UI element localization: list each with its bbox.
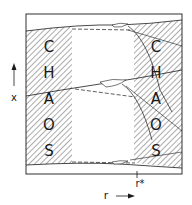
chaos-letter: A — [151, 90, 162, 108]
chaos-letter: O — [150, 116, 162, 134]
y-axis-indicator: x — [11, 63, 17, 103]
chaos-letter: C — [44, 38, 54, 56]
x-axis-label: r — [104, 189, 109, 202]
arrow-up-icon — [12, 63, 17, 70]
x-axis-indicator: r — [104, 189, 135, 202]
bifurcation-diagram: C H A O S C H A O S x r* r — [0, 0, 192, 205]
chaos-letter: A — [44, 90, 55, 108]
arrow-right-icon — [128, 194, 135, 199]
chaos-letter: O — [43, 116, 55, 134]
chaos-letter: S — [151, 142, 161, 160]
r-star-label: r* — [135, 178, 144, 189]
chaos-letter: H — [43, 64, 54, 82]
chaos-letter: H — [150, 64, 161, 82]
y-axis-label: x — [11, 92, 17, 103]
chaos-letter: S — [44, 142, 54, 160]
middle-dashed-orbit — [75, 89, 135, 97]
upper-dashed-orbit — [72, 29, 130, 30]
chaos-letter: C — [151, 38, 161, 56]
